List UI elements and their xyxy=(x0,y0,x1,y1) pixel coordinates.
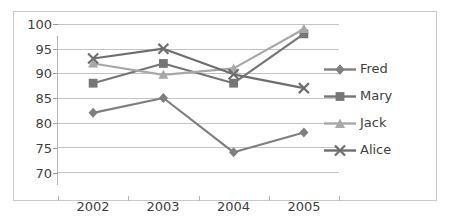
chart-legend: Fred Mary Jack xyxy=(322,56,402,164)
legend-item-jack[interactable]: Jack xyxy=(322,110,402,137)
x-tick-mark xyxy=(199,196,200,201)
gridline xyxy=(58,172,339,173)
line-chart: 100 95 90 85 80 75 70 xyxy=(0,0,449,219)
legend-item-alice[interactable]: Alice xyxy=(322,137,402,164)
series-plot xyxy=(58,24,339,172)
y-tick-label: 70 xyxy=(12,167,52,180)
legend-marker-triangle-icon xyxy=(322,110,358,137)
x-tick-mark xyxy=(58,196,59,201)
legend-item-fred[interactable]: Fred xyxy=(322,56,402,83)
x-tick-mark xyxy=(128,196,129,201)
x-tick-mark xyxy=(269,196,270,201)
series-fred xyxy=(89,93,309,157)
series-jack xyxy=(88,24,309,79)
x-tick-label: 2004 xyxy=(204,200,264,213)
legend-label: Alice xyxy=(360,143,391,156)
legend-marker-x-icon xyxy=(322,137,358,164)
x-tick-label: 2003 xyxy=(133,200,193,213)
y-tick-label: 85 xyxy=(12,92,52,105)
x-tick-mark xyxy=(339,196,340,201)
y-tick-label: 80 xyxy=(12,117,52,130)
legend-marker-square-icon xyxy=(322,83,358,110)
legend-item-mary[interactable]: Mary xyxy=(322,83,402,110)
legend-marker-diamond-icon xyxy=(322,56,358,83)
x-tick-label: 2005 xyxy=(274,200,334,213)
legend-label: Jack xyxy=(360,116,386,129)
plot-area: 2002 2003 2004 2005 xyxy=(58,24,339,172)
y-tick-label: 75 xyxy=(12,142,52,155)
x-tick-label: 2002 xyxy=(63,200,123,213)
y-tick-label: 90 xyxy=(12,67,52,80)
legend-label: Mary xyxy=(360,89,392,102)
y-tick-label: 100 xyxy=(12,18,52,31)
legend-label: Fred xyxy=(360,62,388,75)
y-tick-label: 95 xyxy=(12,43,52,56)
series-mary xyxy=(89,29,309,87)
chart-frame: 100 95 90 85 80 75 70 xyxy=(13,11,437,201)
